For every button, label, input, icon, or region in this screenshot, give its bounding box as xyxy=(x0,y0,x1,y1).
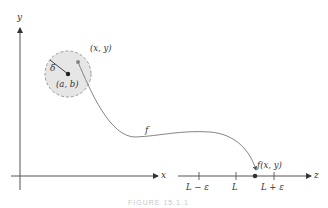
center-point xyxy=(66,72,70,76)
center-label: (a, b) xyxy=(56,80,79,89)
function-label: f xyxy=(145,126,148,135)
fxy-label: f(x, y) xyxy=(257,161,282,170)
tick-label-L: L xyxy=(232,183,238,192)
z-axis-label: z xyxy=(314,171,319,180)
delta-label: δ xyxy=(50,64,55,73)
fxy-point xyxy=(253,174,258,179)
y-axis-label: y xyxy=(17,13,22,22)
figure-caption: FIGURE 15.1.1 xyxy=(128,199,189,206)
tick-label-L-minus-eps: L − ε xyxy=(186,183,209,192)
x-axis-label: x xyxy=(161,171,166,180)
function-mapping-curve xyxy=(78,62,256,170)
tick-label-L-plus-eps: L + ε xyxy=(261,183,284,192)
xy-point-label: (x, y) xyxy=(90,44,112,53)
